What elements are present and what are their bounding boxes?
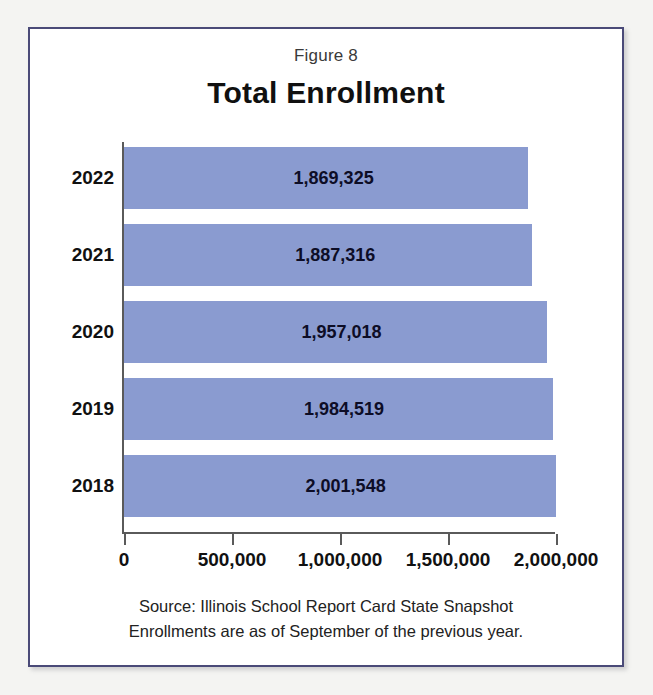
- x-tick-3: [448, 534, 450, 545]
- source-line-1: Source: Illinois School Report Card Stat…: [30, 594, 622, 619]
- bar-chart-plot: 20222021202020192018 1,869,3251,887,3161…: [30, 29, 626, 669]
- bar-row: 1,957,018: [124, 301, 556, 363]
- bar-value-label-2020: 1,957,018: [302, 301, 382, 363]
- figure-card: Figure 8 Total Enrollment 20222021202020…: [28, 27, 624, 667]
- x-tick-4: [556, 534, 558, 545]
- bar-row: 1,869,325: [124, 147, 556, 209]
- category-label-2018: 2018: [30, 455, 114, 517]
- x-tick-label-3: 1,500,000: [406, 549, 491, 571]
- bar-value-label-2019: 1,984,519: [304, 378, 384, 440]
- x-tick-label-1: 500,000: [198, 549, 267, 571]
- source-line-2: Enrollments are as of September of the p…: [30, 619, 622, 644]
- category-label-2021: 2021: [30, 224, 114, 286]
- x-axis-line: [122, 532, 555, 534]
- x-tick-label-0: 0: [119, 549, 130, 571]
- bar-value-label-2022: 1,869,325: [294, 147, 374, 209]
- bar-row: 2,001,548: [124, 455, 556, 517]
- bar-row: 1,887,316: [124, 224, 556, 286]
- bar-row: 1,984,519: [124, 378, 556, 440]
- x-tick-1: [232, 534, 234, 545]
- x-tick-0: [124, 534, 126, 545]
- bar-series: 1,869,3251,887,3161,957,0181,984,5192,00…: [124, 147, 556, 532]
- x-tick-label-2: 1,000,000: [298, 549, 383, 571]
- x-tick-2: [340, 534, 342, 545]
- bar-value-label-2018: 2,001,548: [306, 455, 386, 517]
- category-label-2019: 2019: [30, 378, 114, 440]
- page-background: Figure 8 Total Enrollment 20222021202020…: [0, 0, 653, 695]
- source-note: Source: Illinois School Report Card Stat…: [30, 594, 622, 644]
- category-label-2020: 2020: [30, 301, 114, 363]
- bar-value-label-2021: 1,887,316: [295, 224, 375, 286]
- category-label-2022: 2022: [30, 147, 114, 209]
- x-tick-label-4: 2,000,000: [514, 549, 599, 571]
